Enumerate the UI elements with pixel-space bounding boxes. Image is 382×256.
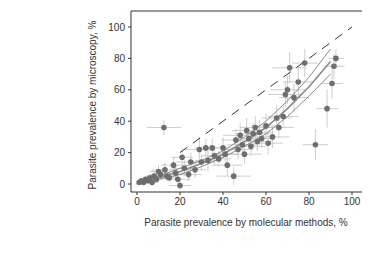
x-axis-label: Parasite prevalence by molecular methods… (144, 217, 348, 228)
data-point (216, 156, 222, 162)
data-point (252, 125, 258, 131)
data-point (324, 106, 330, 112)
data-point (329, 81, 335, 87)
data-point (205, 158, 211, 164)
data-point (199, 159, 205, 165)
data-point (250, 131, 256, 137)
ci-upper-line (137, 49, 331, 181)
data-point (240, 142, 246, 148)
data-point (179, 155, 185, 161)
data-point (175, 176, 181, 182)
fit-curve-band (137, 49, 331, 184)
x-tick-label: 40 (217, 196, 229, 207)
data-point (259, 136, 265, 142)
y-tick-label: 100 (108, 22, 125, 33)
data-point (295, 79, 301, 85)
data-point (161, 125, 167, 131)
data-point (192, 167, 198, 173)
y-axis-label: Parasite prevalence by microscopy, % (87, 21, 98, 190)
data-point (186, 172, 192, 178)
data-point (248, 144, 254, 150)
data-point (222, 151, 228, 157)
data-point (158, 172, 164, 178)
data-point (333, 56, 339, 62)
data-point (166, 175, 172, 181)
data-point (220, 145, 226, 151)
data-point (203, 145, 209, 151)
x-tick-label: 0 (134, 196, 140, 207)
data-point (331, 63, 337, 69)
data-point (173, 170, 179, 176)
y-tick-label: 80 (114, 53, 126, 64)
data-point (182, 166, 188, 172)
data-point (265, 140, 271, 146)
scatter-chart: 020406080100 020406080100 Parasite preva… (0, 0, 382, 256)
data-point (237, 133, 243, 139)
data-point (276, 125, 282, 131)
data-point (242, 151, 248, 157)
x-tick-label: 80 (303, 196, 315, 207)
x-tick-label: 60 (260, 196, 272, 207)
y-tick-label: 20 (114, 147, 126, 158)
data-point (280, 114, 286, 120)
data-point (154, 176, 160, 182)
data-point (233, 137, 239, 143)
fit-line (137, 62, 331, 183)
data-point (244, 128, 250, 134)
data-point (246, 136, 252, 142)
y-tick-label: 40 (114, 116, 126, 127)
x-tick-label: 100 (344, 196, 361, 207)
x-tick-label: 20 (174, 196, 186, 207)
y-tick-label: 0 (119, 179, 125, 190)
data-point (171, 162, 177, 168)
data-point (225, 162, 231, 168)
data-point (231, 173, 237, 179)
y-axis-ticks: 020406080100 (108, 22, 131, 190)
data-point (257, 129, 263, 135)
data-point (263, 123, 269, 129)
data-point (313, 142, 319, 148)
x-axis-ticks: 020406080100 (134, 192, 361, 207)
data-points (136, 56, 338, 189)
data-point (287, 65, 293, 71)
error-bars (137, 49, 345, 190)
data-point (291, 95, 297, 101)
data-point (162, 167, 168, 173)
data-point (209, 145, 215, 151)
data-point (177, 183, 183, 189)
data-point (274, 115, 280, 121)
data-point (197, 147, 203, 153)
data-point (270, 134, 276, 140)
data-point (235, 147, 241, 153)
y-tick-label: 60 (114, 84, 126, 95)
data-point (302, 60, 308, 66)
data-point (285, 87, 291, 93)
data-point (188, 159, 194, 165)
